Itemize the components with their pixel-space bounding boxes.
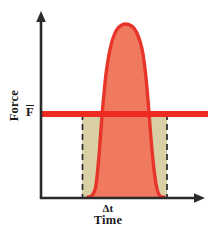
x-axis-label-group: Δt Time xyxy=(0,203,216,227)
x-axis-arrow-icon xyxy=(194,193,205,203)
x-axis-label: Time xyxy=(0,214,216,227)
y-axis-label: Force xyxy=(8,82,21,130)
average-force-label: F xyxy=(26,105,34,119)
force-time-chart: Force F Δt Time xyxy=(0,0,216,239)
y-axis-arrow-icon xyxy=(36,11,46,22)
average-force-symbol: F xyxy=(26,105,34,119)
